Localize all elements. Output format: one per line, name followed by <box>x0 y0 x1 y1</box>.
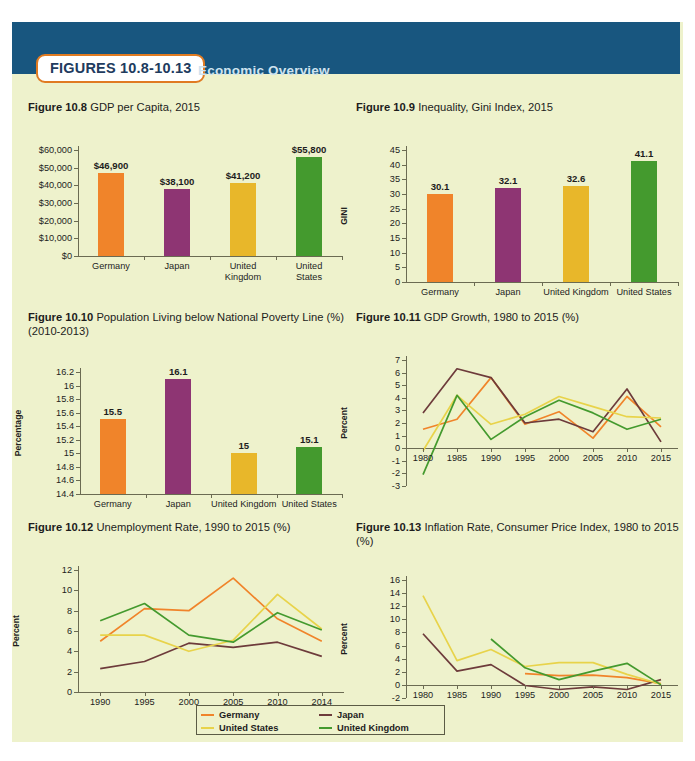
x-tick <box>661 448 662 452</box>
y-tick <box>76 494 80 495</box>
y-axis-line <box>78 146 79 256</box>
y-tick-label: $30,000 <box>22 198 72 208</box>
figure-caption-fig112: Unemployment Rate, 1990 to 2015 (%) <box>93 521 290 533</box>
legend-swatch-united-kingdom <box>319 727 332 729</box>
line-united-states <box>100 594 322 651</box>
x-tick-label: 1995 <box>508 690 542 701</box>
line-united-states <box>423 395 661 450</box>
line-series-canvas <box>356 554 688 708</box>
figure-title-fig108: Figure 10.8 GDP per Capita, 2015 <box>28 100 344 114</box>
y-tick <box>74 221 78 222</box>
bar-value-label: 30.1 <box>431 181 450 192</box>
figure-title-fig109: Figure 10.9 Inequality, Gini Index, 2015 <box>356 100 680 114</box>
y-tick <box>76 399 80 400</box>
y-tick <box>76 467 80 468</box>
x-tick-label: United Kingdom <box>211 499 277 510</box>
x-tick-label: 1985 <box>440 453 474 464</box>
x-tick <box>189 692 190 696</box>
x-tick-label-line: Germany <box>80 499 146 510</box>
y-tick-label: 15 <box>350 233 400 243</box>
y-tick <box>74 238 78 239</box>
y-axis-line <box>406 146 407 282</box>
bar-value-label: 32.1 <box>499 175 518 186</box>
x-tick <box>542 282 543 286</box>
x-tick-label-line: Japan <box>144 261 210 272</box>
y-tick-label: 10 <box>350 248 400 258</box>
y-tick-label: 15.2 <box>24 435 74 445</box>
x-tick-label: United States <box>610 287 678 298</box>
x-tick-label: 2010 <box>610 453 644 464</box>
y-tick-label: $40,000 <box>22 180 72 190</box>
figure-fig113: Figure 10.13 Inflation Rate, Consumer Pr… <box>356 520 680 718</box>
line-united-kingdom <box>100 604 322 643</box>
figure-number-fig112: Figure 10.12 <box>28 521 93 533</box>
bar-united-kingdom <box>230 183 256 256</box>
x-tick-label: 1990 <box>78 697 122 708</box>
x-tick-label: 2005 <box>576 453 610 464</box>
x-tick <box>661 685 662 689</box>
y-tick-label: 15 <box>24 448 74 458</box>
figures-header-bar: FIGURES 10.8-10.13 Economic Overview <box>12 22 680 74</box>
y-tick <box>402 267 406 268</box>
figure-number-fig113: Figure 10.13 <box>356 521 421 533</box>
legend-swatch-germany <box>201 714 214 716</box>
bar-united-states <box>631 161 657 282</box>
figure-caption-fig109: Inequality, Gini Index, 2015 <box>415 101 553 113</box>
x-tick <box>423 685 424 689</box>
bar-value-label: 32.6 <box>567 173 586 184</box>
x-tick-label: 2015 <box>644 690 678 701</box>
bar-united-kingdom <box>563 186 589 282</box>
y-axis-title: GINI <box>339 207 349 225</box>
y-tick <box>74 203 78 204</box>
legend-label-united-states: United States <box>219 723 278 733</box>
x-tick <box>559 448 560 452</box>
y-tick <box>76 440 80 441</box>
legend-row-2: United States United Kingdom <box>201 721 440 734</box>
bar-value-label: $38,100 <box>160 176 195 187</box>
legend-item-japan: Japan <box>319 710 364 720</box>
x-tick-label: 1980 <box>406 690 440 701</box>
y-tick-label: 20 <box>350 218 400 228</box>
line-japan <box>423 634 661 690</box>
figure-fig112: Figure 10.12 Unemployment Rate, 1990 to … <box>28 520 344 712</box>
y-tick <box>402 150 406 151</box>
x-tick-label: Japan <box>146 499 212 510</box>
x-tick <box>276 256 277 260</box>
y-tick-label: 16.2 <box>24 367 74 377</box>
y-tick <box>74 150 78 151</box>
legend-item-united-kingdom: United Kingdom <box>319 723 409 733</box>
x-tick-label: United Kingdom <box>542 287 610 298</box>
y-tick-label: 15.4 <box>24 421 74 431</box>
x-tick <box>593 685 594 689</box>
legend-row-1: Germany Japan <box>201 708 440 721</box>
y-tick-label: 14.4 <box>24 489 74 499</box>
x-tick <box>144 256 145 260</box>
x-tick <box>559 685 560 689</box>
x-tick-label: 2000 <box>542 690 576 701</box>
y-tick-label: 0 <box>350 277 400 287</box>
x-tick-label: 1995 <box>122 697 166 708</box>
y-tick <box>402 253 406 254</box>
y-axis-title: Percentage <box>13 410 23 456</box>
x-tick-label: Japan <box>474 287 542 298</box>
plot-area-fig108: $0$10,000$20,000$30,000$40,000$50,000$60… <box>28 120 344 286</box>
x-tick <box>525 448 526 452</box>
y-tick-label: 15.8 <box>24 394 74 404</box>
x-tick <box>491 448 492 452</box>
x-tick-label-line: United Kingdom <box>542 287 610 298</box>
y-axis-title: Percent <box>339 623 349 655</box>
bar-united-states <box>296 447 322 494</box>
y-axis-title: Percent <box>339 407 349 439</box>
legend-item-united-states: United States <box>201 723 319 733</box>
y-tick-label: $20,000 <box>22 216 72 226</box>
series-legend: Germany Japan United States United Kingd… <box>196 705 445 735</box>
y-tick <box>76 480 80 481</box>
figure-fig110: Figure 10.10 Population Living below Nat… <box>28 310 344 514</box>
bar-united-states <box>296 157 322 256</box>
x-tick-label: UnitedStates <box>276 261 342 282</box>
x-tick-label-line: United <box>276 261 342 272</box>
x-tick-label-line: United States <box>277 499 343 510</box>
y-tick-label: 35 <box>350 174 400 184</box>
y-tick-label: 15.6 <box>24 408 74 418</box>
x-tick-label: 1990 <box>474 453 508 464</box>
